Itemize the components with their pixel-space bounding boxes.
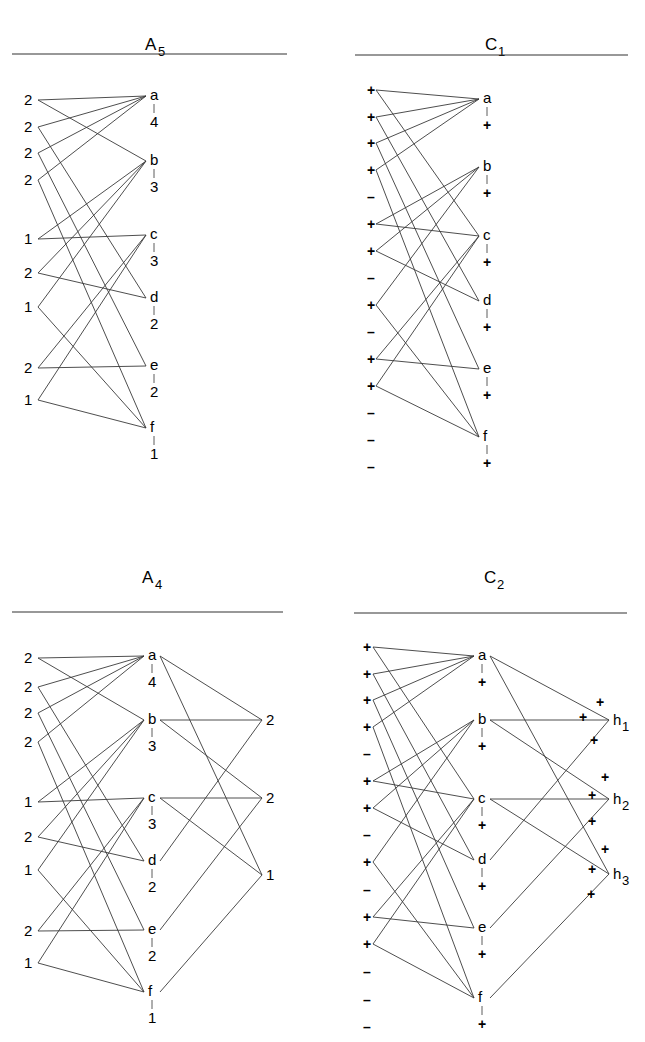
vertex-value: + <box>483 185 491 201</box>
edge <box>38 96 146 100</box>
edge <box>373 656 474 700</box>
edge <box>373 656 474 674</box>
edge <box>38 161 146 239</box>
right-node-subscript: 2 <box>622 798 629 813</box>
vertex-value: + <box>478 738 486 754</box>
left-node-label: 2 <box>24 678 32 695</box>
edge-sign-plus: + <box>587 886 595 902</box>
panel-c1: C1++++–++–+–++–––a+b+c+d+e+f+ <box>355 35 628 475</box>
left-node-label: 2 <box>24 91 32 108</box>
left-node-label: + <box>363 639 371 655</box>
edge <box>38 687 144 861</box>
right-node-label: h <box>613 711 621 728</box>
left-node-label: + <box>363 666 371 682</box>
vertex-value: 3 <box>150 252 158 269</box>
left-node-label: – <box>367 405 375 421</box>
left-node-label: + <box>363 692 371 708</box>
vertex-e: e <box>478 918 486 935</box>
right-node-label: h <box>613 790 621 807</box>
left-node-label: – <box>363 746 371 762</box>
left-node-label: + <box>367 351 375 367</box>
left-node-label: – <box>363 964 371 980</box>
vertex-value: 1 <box>150 445 158 462</box>
vertex-e: e <box>483 359 491 376</box>
right-node-label: h <box>613 865 621 882</box>
left-node-label: 2 <box>24 922 32 939</box>
vertex-f: f <box>483 427 488 444</box>
edge <box>38 96 146 180</box>
panel-title-subscript: 1 <box>498 44 505 59</box>
left-node-label: + <box>363 936 371 952</box>
panel-title: A <box>142 568 154 587</box>
vertex-value: + <box>483 254 491 270</box>
vertex-f: f <box>148 982 153 999</box>
vertex-value: + <box>483 319 491 335</box>
edge <box>38 96 146 127</box>
vertex-c: c <box>150 225 158 242</box>
edge <box>376 90 479 99</box>
edge <box>376 90 479 236</box>
edge <box>376 236 479 359</box>
panel-title-subscript: 5 <box>158 44 165 59</box>
right-node-subscript: 1 <box>622 719 629 734</box>
left-node-label: + <box>363 719 371 735</box>
vertex-a: a <box>148 646 157 663</box>
vertex-value: + <box>478 878 486 894</box>
edge <box>376 99 479 117</box>
left-node-label: – <box>367 189 375 205</box>
vertex-b: b <box>148 710 156 727</box>
left-node-label: – <box>363 882 371 898</box>
vertex-value: 2 <box>150 383 158 400</box>
edge <box>373 656 474 727</box>
vertex-f: f <box>478 988 483 1005</box>
edge <box>38 798 144 802</box>
edge-sign-plus: + <box>588 861 596 877</box>
edge-sign-plus: + <box>596 694 604 710</box>
left-node-label: 2 <box>24 264 32 281</box>
vertex-c: c <box>483 226 491 243</box>
left-node-label: 2 <box>24 733 32 750</box>
edge <box>38 742 144 992</box>
vertex-value: 2 <box>150 315 158 332</box>
panel-title: A <box>145 35 157 54</box>
edge <box>376 99 479 143</box>
edge <box>38 127 146 298</box>
vertex-value: + <box>483 455 491 471</box>
left-node-label: 1 <box>24 793 32 810</box>
left-node-label: + <box>363 909 371 925</box>
left-node-label: + <box>367 82 375 98</box>
edge-sign-plus: + <box>601 841 609 857</box>
left-node-label: 2 <box>24 118 32 135</box>
edge <box>38 656 144 687</box>
edge <box>373 862 474 998</box>
right-node-label: 1 <box>266 866 274 883</box>
vertex-value: + <box>478 1016 486 1032</box>
vertex-value: + <box>478 946 486 962</box>
left-node-label: – <box>363 992 371 1008</box>
left-node-label: 1 <box>24 861 32 878</box>
edge <box>38 963 144 992</box>
edge <box>376 386 479 437</box>
vertex-d: d <box>478 850 486 867</box>
edge <box>38 235 146 239</box>
vertex-c: c <box>478 789 486 806</box>
left-node-label: 1 <box>24 391 32 408</box>
vertex-value: 3 <box>148 737 156 754</box>
vertex-value: 2 <box>148 947 156 964</box>
vertex-a: a <box>150 86 159 103</box>
edge <box>376 167 479 224</box>
edge <box>160 720 262 861</box>
edge-sign-plus: + <box>579 709 587 725</box>
left-node-label: 2 <box>24 359 32 376</box>
edge-sign-plus: + <box>588 813 596 829</box>
vertex-f: f <box>150 418 155 435</box>
left-node-label: + <box>367 216 375 232</box>
edge <box>376 99 479 170</box>
edge <box>38 720 144 802</box>
edge <box>373 647 474 656</box>
edge-sign-plus: + <box>590 732 598 748</box>
left-node-label: 1 <box>24 298 32 315</box>
vertex-d: d <box>148 851 156 868</box>
edge <box>38 656 144 713</box>
vertex-e: e <box>150 356 158 373</box>
